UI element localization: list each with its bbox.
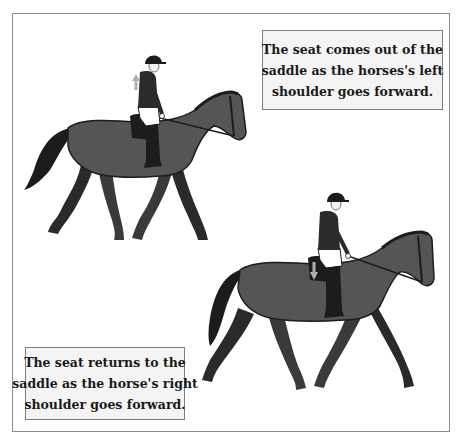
rider-hand <box>160 114 165 119</box>
caption-seat-rising: The seat comes out of the saddle as the … <box>262 30 443 110</box>
caption-line: The seat returns to the <box>12 352 197 373</box>
horse-tail <box>24 128 70 190</box>
caption-line: saddle as the horse's right <box>12 373 197 394</box>
caption-line: shoulder goes forward. <box>262 81 443 102</box>
riding-helmet <box>145 55 166 64</box>
up-arrow-icon <box>132 74 140 90</box>
caption-line: saddle as the horses's left <box>262 60 443 81</box>
rider-jacket <box>138 71 158 108</box>
caption-line: The seat comes out of the <box>262 39 443 60</box>
caption-seat-returning: The seat returns to the saddle as the ho… <box>25 347 185 420</box>
caption-line: shoulder goes forward. <box>12 394 197 415</box>
horse-rider-sitting-illustration <box>198 178 438 403</box>
riding-helmet <box>327 193 349 202</box>
rider-hand <box>346 254 351 259</box>
